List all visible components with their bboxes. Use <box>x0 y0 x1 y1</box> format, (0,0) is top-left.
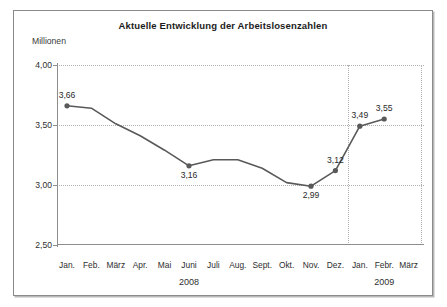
x-tick-label: Juni <box>181 260 196 270</box>
x-tick-label: Febr. <box>375 260 394 270</box>
x-tick-label: Dez. <box>327 260 344 270</box>
data-point-value-label: 2,99 <box>303 190 320 200</box>
x-tick-label: Apr. <box>133 260 148 270</box>
plot-area: 2,503,003,504,00 3,663,162,993,123,493,5… <box>57 65 424 245</box>
y-tick-label: 2,50 <box>35 240 52 250</box>
data-point-marker <box>186 163 191 168</box>
y-tick-label: 3,00 <box>35 180 52 190</box>
chart-frame: Aktuelle Entwicklung der Arbeitslosenzah… <box>13 10 433 296</box>
year-label: 2008 <box>179 277 199 287</box>
year-label: 2009 <box>374 277 394 287</box>
data-point-value-label: 3,55 <box>376 103 393 113</box>
x-tick-label: März <box>106 260 125 270</box>
data-point-marker <box>333 168 338 173</box>
chart-title: Aktuelle Entwicklung der Arbeitslosenzah… <box>14 20 432 31</box>
x-tick-label: Jan. <box>352 260 368 270</box>
y-axis-unit-label: Millionen <box>32 36 66 46</box>
data-point-value-label: 3,12 <box>327 155 344 165</box>
x-tick-label: März <box>399 260 418 270</box>
y-tick-label: 3,50 <box>35 120 52 130</box>
x-tick-label: Nov. <box>303 260 320 270</box>
x-tick-label: Aug. <box>229 260 246 270</box>
x-axis-tick-labels: Jan.Feb.MärzApr.MaiJuniJuliAug.Sept.Okt.… <box>57 260 424 274</box>
series-line-unemployment <box>57 65 424 245</box>
data-point-value-label: 3,16 <box>181 170 198 180</box>
x-tick-label: Feb. <box>83 260 100 270</box>
data-point-value-label: 3,66 <box>59 90 76 100</box>
data-point-marker <box>357 124 362 129</box>
x-tick-label: Jan. <box>59 260 75 270</box>
data-point-marker <box>382 116 387 121</box>
x-tick-label: Okt. <box>279 260 294 270</box>
data-point-value-label: 3,49 <box>351 110 368 120</box>
y-tick-label: 4,00 <box>35 60 52 70</box>
y-tick-mark <box>53 245 57 246</box>
x-axis-year-labels: 20082009 <box>57 277 424 291</box>
data-point-marker <box>308 184 313 189</box>
data-point-marker <box>64 103 69 108</box>
x-tick-label: Mai <box>158 260 172 270</box>
x-tick-label: Sept. <box>252 260 272 270</box>
x-tick-label: Juli <box>207 260 220 270</box>
